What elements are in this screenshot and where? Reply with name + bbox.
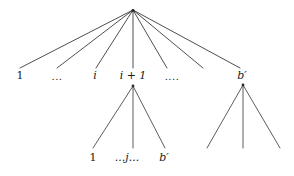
right-subtree-edges (207, 85, 280, 148)
node-label-ellipsis-right: .... (165, 71, 180, 82)
node-label-sub-leaf-1: 1 (90, 152, 97, 163)
node-label-sub-leaf-b-prime: b′ (159, 152, 169, 163)
root-fan-edges (20, 10, 240, 68)
right-subtree-node (242, 84, 245, 87)
root-edge-5 (133, 10, 167, 68)
node-label-sub-leaf-j: ...j... (115, 152, 139, 163)
root-edge-6 (133, 10, 203, 68)
node-label-child-1: 1 (17, 70, 24, 81)
node-label-ellipsis-left: ... (51, 71, 62, 82)
root-edge-2 (57, 10, 133, 68)
tree-diagram: 1 ... i i + 1 .... b′ 1 ...j... b′ (0, 0, 294, 176)
middle-subtree-node (132, 85, 135, 88)
middle-edge-3 (133, 86, 165, 148)
tree-edges-canvas (0, 0, 294, 176)
middle-edge-1 (93, 86, 133, 148)
node-label-child-b-prime: b′ (237, 70, 247, 81)
node-label-child-i: i (93, 70, 97, 81)
root-edge-7 (133, 10, 240, 68)
node-label-child-i-plus-1: i + 1 (120, 70, 147, 81)
right-edge-1 (207, 85, 243, 148)
root-edge-3 (96, 10, 133, 68)
root-edge-1 (20, 10, 133, 68)
middle-subtree-edges (93, 86, 165, 148)
right-edge-3 (243, 85, 280, 148)
root-node (131, 9, 134, 12)
